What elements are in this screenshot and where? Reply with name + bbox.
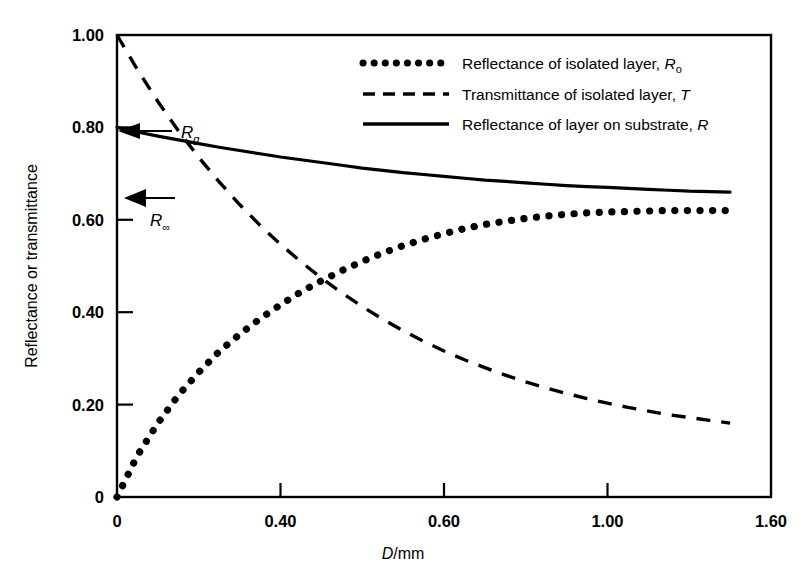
x-tick-label: 0.60 bbox=[428, 512, 460, 530]
y-tick-label: 0 bbox=[95, 488, 104, 506]
x-tick-label: 1.60 bbox=[755, 512, 787, 530]
x-axis-title: D/mm bbox=[382, 545, 425, 562]
y-axis-title: Reflectance or transmittance bbox=[23, 164, 40, 368]
chart-canvas: 00.400.601.001.60 00.200.400.600.801.00 … bbox=[0, 0, 806, 582]
figure-container: 00.400.601.001.60 00.200.400.600.801.00 … bbox=[0, 0, 806, 582]
y-tick-label: 1.00 bbox=[72, 26, 104, 44]
y-tick-label: 0.80 bbox=[72, 118, 104, 136]
x-tick-label: 0 bbox=[112, 512, 121, 530]
legend-label: Reflectance of layer on substrate, R bbox=[462, 116, 708, 133]
legend-label: Transmittance of isolated layer, T bbox=[462, 86, 691, 103]
x-tick-label: 1.00 bbox=[591, 512, 623, 530]
y-tick-label: 0.20 bbox=[72, 396, 104, 414]
x-tick-label: 0.40 bbox=[264, 512, 296, 530]
y-tick-label: 0.40 bbox=[72, 303, 104, 321]
y-tick-label: 0.60 bbox=[72, 211, 104, 229]
